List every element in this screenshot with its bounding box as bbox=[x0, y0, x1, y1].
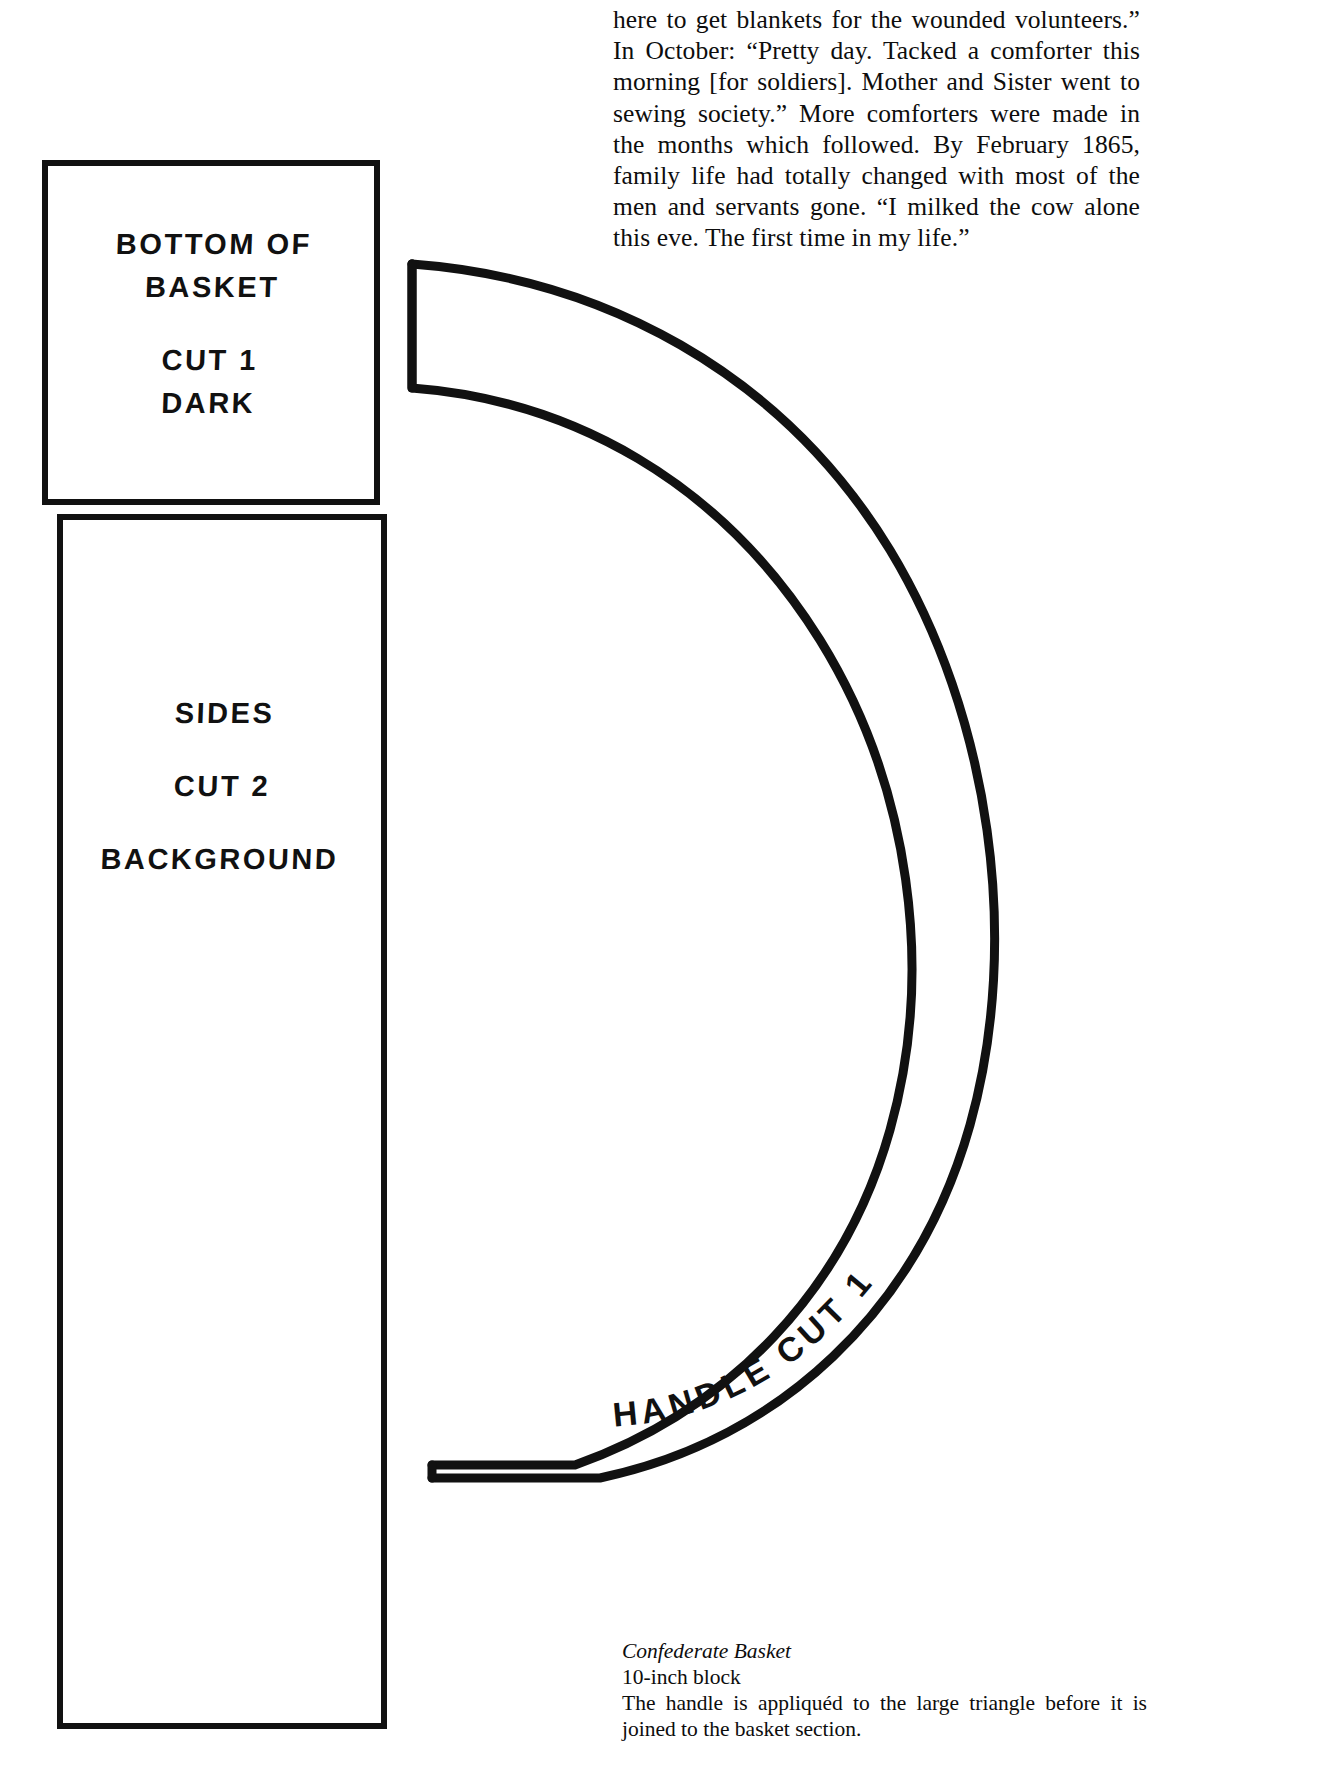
label-sides-line3: BACKGROUND bbox=[60, 843, 379, 876]
body-paragraph: here to get blankets for the wounded vol… bbox=[613, 4, 1140, 254]
label-bottom-line4: DARK bbox=[45, 387, 372, 420]
bottom-of-basket-labels: BOTTOM OF BASKET CUT 1 DARK bbox=[45, 228, 378, 420]
caption-note: The handle is appliquéd to the large tri… bbox=[622, 1690, 1147, 1742]
pattern-piece-handle: HANDLE CUT 1 bbox=[390, 250, 1040, 1480]
label-bottom-line1: BOTTOM OF bbox=[50, 228, 377, 261]
sides-labels: SIDES CUT 2 BACKGROUND bbox=[60, 697, 384, 876]
pattern-piece-bottom-of-basket: BOTTOM OF BASKET CUT 1 DARK bbox=[42, 160, 380, 505]
label-sides-line1: SIDES bbox=[65, 697, 384, 730]
label-bottom-line3: CUT 1 bbox=[46, 344, 373, 377]
caption-title: Confederate Basket bbox=[622, 1638, 1147, 1664]
caption-subtitle: 10-inch block bbox=[622, 1664, 1147, 1690]
figure-caption: Confederate Basket 10-inch block The han… bbox=[622, 1638, 1147, 1742]
pattern-piece-sides: SIDES CUT 2 BACKGROUND bbox=[57, 514, 387, 1729]
label-sides-line2: CUT 2 bbox=[62, 770, 381, 803]
body-text-column: here to get blankets for the wounded vol… bbox=[613, 4, 1140, 254]
label-bottom-line2: BASKET bbox=[49, 271, 376, 304]
